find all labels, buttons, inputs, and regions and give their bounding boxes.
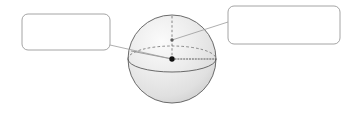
diagram-canvas bbox=[0, 0, 354, 113]
axis-point bbox=[170, 38, 173, 41]
callout-box-left[interactable] bbox=[22, 14, 110, 50]
center-point bbox=[169, 56, 174, 61]
sphere-diagram-svg bbox=[0, 0, 354, 113]
callout-box-right[interactable] bbox=[228, 6, 340, 44]
